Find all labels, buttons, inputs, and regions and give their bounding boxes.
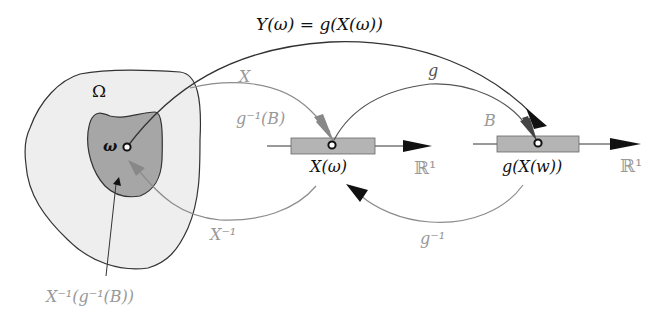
map-X-inverse-label: X⁻¹: [208, 225, 236, 244]
map-g-inverse-label: g⁻¹: [420, 229, 445, 248]
gX-point-marker: [534, 139, 541, 146]
preimage-g-B-label: g⁻¹(B): [236, 109, 285, 128]
omega-point-label: ω: [103, 137, 117, 155]
omega-set-label: Ω: [92, 81, 106, 101]
map-X-label: X: [237, 67, 251, 86]
real-line-2-label: ℝ¹: [620, 155, 642, 176]
top-formula-label: Y(ω) = g(X(ω)): [256, 14, 383, 34]
X-omega-point-marker: [328, 141, 335, 148]
arrow-g-map: [334, 84, 528, 140]
real-line-2-arrowhead-icon: [610, 138, 641, 150]
map-g-label: g: [428, 61, 438, 80]
real-line-1-label: ℝ¹: [414, 157, 436, 178]
random-variable-composition-diagram: Y(ω) = g(X(ω)) Ω ω X g⁻¹(B) g B X(ω) g(X…: [0, 0, 668, 318]
real-line-1-arrowhead-icon: [403, 140, 432, 152]
omega-point-marker: [123, 143, 130, 150]
set-B-label: B: [483, 111, 496, 130]
gX-label: g(X(w)): [502, 157, 562, 176]
X-omega-label: X(ω): [308, 157, 347, 176]
full-preimage-label: X⁻¹(g⁻¹(B)): [44, 287, 134, 306]
arrow-g-inverse-map: [360, 185, 523, 222]
diagram-canvas: Y(ω) = g(X(ω)) Ω ω X g⁻¹(B) g B X(ω) g(X…: [0, 0, 668, 318]
